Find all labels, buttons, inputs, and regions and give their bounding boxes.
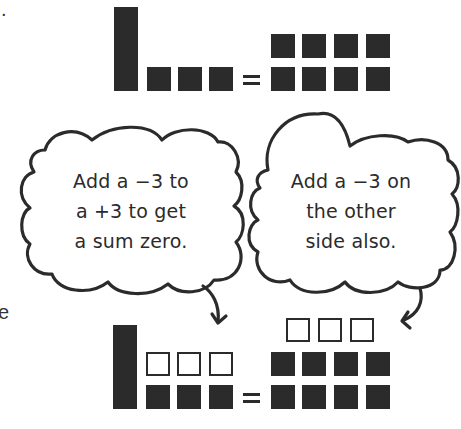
positive-unit-tile [209,385,233,409]
positive-unit-tile [366,352,390,376]
negative-unit-tile [209,352,233,376]
right-bubble-line-1: Add a −3 on [262,166,440,196]
positive-unit-tile [366,385,390,409]
x-bar-tile [113,325,137,409]
negative-unit-tile [318,318,342,342]
right-bubble-text: Add a −3 on the other side also. [262,166,440,256]
positive-unit-tile [177,385,201,409]
left-bubble-line-3: a sum zero. [40,226,222,256]
negative-unit-tile [350,318,374,342]
negative-unit-tile [146,352,170,376]
negative-unit-tile [286,318,310,342]
negative-unit-tile [177,352,201,376]
left-bubble-line-1: Add a −3 to [40,166,222,196]
right-bubble-line-2: the other [262,196,440,226]
positive-unit-tile [302,352,326,376]
left-bubble-line-2: a +3 to get [40,196,222,226]
left-curved-arrow [203,286,218,322]
positive-unit-tile [271,352,295,376]
positive-unit-tile [146,385,170,409]
left-bubble-text: Add a −3 to a +3 to get a sum zero. [40,166,222,256]
equals-sign [243,393,260,403]
positive-unit-tile [334,352,358,376]
positive-unit-tile [334,385,358,409]
right-bubble-line-3: side also. [262,226,440,256]
positive-unit-tile [302,385,326,409]
positive-unit-tile [271,385,295,409]
